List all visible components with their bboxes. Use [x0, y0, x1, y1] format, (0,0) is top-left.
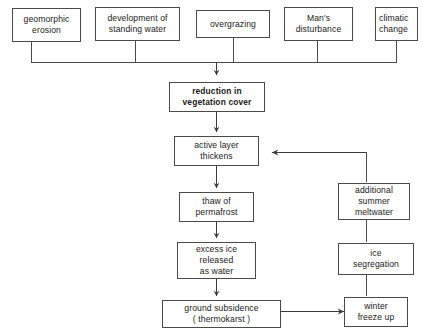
node-geomorphic-erosion-label: geomorphicerosion [15, 14, 78, 36]
node-ground-subsidence-thermokarst-label: ground subsidence( thermokarst ) [165, 303, 278, 325]
node-mans-disturbance[interactable]: Man'sdisturbance [284, 7, 353, 41]
node-active-layer-thickens-label: active layerthickens [177, 140, 256, 162]
node-overgrazing-label: overgrazing [199, 19, 267, 30]
node-ice-segregation-label: icesegregation [341, 248, 411, 270]
node-winter-freeze-up-label: winterfreeze up [347, 301, 405, 323]
node-climatic-change[interactable]: climaticchange [375, 7, 418, 41]
node-excess-ice-released-as-water-label: excess icereleasedas water [180, 244, 253, 277]
node-climatic-change-label: climaticchange [379, 13, 415, 35]
node-additional-summer-meltwater-label: additionalsummermeltwater [341, 185, 407, 218]
node-development-of-standing-water-label: development ofstanding water [98, 13, 177, 35]
node-reduction-in-vegetation-cover-label: reduction invegetation cover [172, 86, 262, 108]
node-excess-ice-released-as-water[interactable]: excess icereleasedas water [177, 242, 256, 279]
node-overgrazing[interactable]: overgrazing [196, 10, 270, 38]
node-ground-subsidence-thermokarst[interactable]: ground subsidence( thermokarst ) [162, 300, 281, 328]
node-geomorphic-erosion[interactable]: geomorphicerosion [12, 8, 81, 42]
node-reduction-in-vegetation-cover[interactable]: reduction invegetation cover [169, 82, 265, 112]
node-additional-summer-meltwater[interactable]: additionalsummermeltwater [338, 183, 410, 220]
node-thaw-of-permafrost[interactable]: thaw ofpermafrost [179, 192, 254, 222]
node-winter-freeze-up[interactable]: winterfreeze up [344, 297, 408, 327]
node-ice-segregation[interactable]: icesegregation [338, 243, 414, 275]
flowchart-canvas: geomorphicerosion development ofstanding… [0, 0, 422, 331]
node-thaw-of-permafrost-label: thaw ofpermafrost [182, 196, 251, 218]
node-mans-disturbance-label: Man'sdisturbance [287, 13, 350, 35]
node-development-of-standing-water[interactable]: development ofstanding water [95, 7, 180, 41]
node-active-layer-thickens[interactable]: active layerthickens [174, 136, 259, 166]
